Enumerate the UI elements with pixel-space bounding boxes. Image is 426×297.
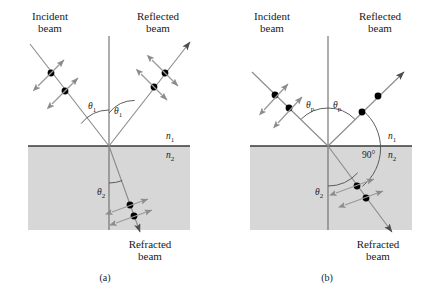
- panel-b-angle-incident-subscript: p: [311, 105, 315, 113]
- panel-b-refracted-beam-line2: beam: [340, 250, 416, 262]
- panel-b-incident-beam-label: Incident beam: [236, 10, 308, 35]
- panel-a-reflected-beam-line2: beam: [122, 22, 194, 34]
- panel-a-index-n2-label: n2: [166, 150, 174, 164]
- panel-b-angle-reflected-subscript: p: [338, 105, 342, 113]
- panel-b-angle-refracted-label: θ2: [315, 187, 323, 201]
- panel-b-angle-refracted-subscript: 2: [320, 192, 324, 200]
- panel-a-incident-beam-line1: Incident: [14, 10, 86, 22]
- panel-b-incident-beam-line1: Incident: [236, 10, 308, 22]
- panel-b-angle-90-label: 90°: [362, 150, 375, 161]
- panel-a-angle-reflected-subscript: 1: [119, 111, 123, 119]
- panel-b-reflected-dot-2: [375, 93, 382, 100]
- panel-a-angle-refracted-subscript: 2: [102, 192, 106, 200]
- panel-a-incident-ray: [30, 44, 109, 146]
- panel-b-angle-incident-label: θp: [306, 100, 314, 114]
- panel-a-angle-incident-subscript: 1: [93, 106, 97, 114]
- panel-a-refracted-beam-line1: Refracted: [112, 238, 188, 250]
- panel-a-index-n2-subscript: 2: [171, 155, 175, 163]
- panel-a-reflected-beam-label: Reflected beam: [122, 10, 194, 35]
- panel-b-reflected-beam-line1: Reflected: [344, 10, 416, 22]
- panel-b-reflected-dot-1: [359, 109, 366, 116]
- panel-a-incident-beam-line2: beam: [14, 22, 86, 34]
- panel-a-caption: (a): [85, 272, 125, 283]
- panel-a-refracted-beam-line2: beam: [112, 250, 188, 262]
- panel-a-index-n1-label: n1: [166, 131, 174, 145]
- panel-a-angle-incident-label: θ1: [88, 101, 96, 115]
- panel-b-incident-beam-line2: beam: [236, 22, 308, 34]
- panel-b-caption: (b): [307, 272, 347, 283]
- panel-b-reflected-beam-line2: beam: [344, 22, 416, 34]
- panel-a-angle-reflected-label: θ1: [114, 106, 122, 120]
- panel-b-index-n1-label: n1: [388, 131, 396, 145]
- physics-figure-polarization-by-reflection: Incident beam Reflected beam Refracted b…: [0, 0, 426, 297]
- panel-a-reflected-beam-line1: Reflected: [122, 10, 194, 22]
- panel-b-refracted-beam-line1: Refracted: [340, 238, 416, 250]
- panel-b-reflected-beam-label: Reflected beam: [344, 10, 416, 35]
- panel-a-incident-beam-label: Incident beam: [14, 10, 86, 35]
- panel-b-index-n2-label: n2: [388, 150, 396, 164]
- panel-b-index-n1-subscript: 1: [393, 136, 397, 144]
- panel-a-reflected-ray: [109, 42, 190, 146]
- panel-a-angle-refracted-label: θ2: [97, 187, 105, 201]
- panel-b-angle-reflected-label: θp: [333, 100, 341, 114]
- panel-b-index-n2-subscript: 2: [393, 155, 397, 163]
- panel-a-reflected-polarization-arrows: [141, 60, 178, 100]
- panel-a-index-n1-subscript: 1: [171, 136, 175, 144]
- panel-b-refracted-beam-label: Refracted beam: [340, 238, 416, 263]
- panel-a-refracted-beam-label: Refracted beam: [112, 238, 188, 263]
